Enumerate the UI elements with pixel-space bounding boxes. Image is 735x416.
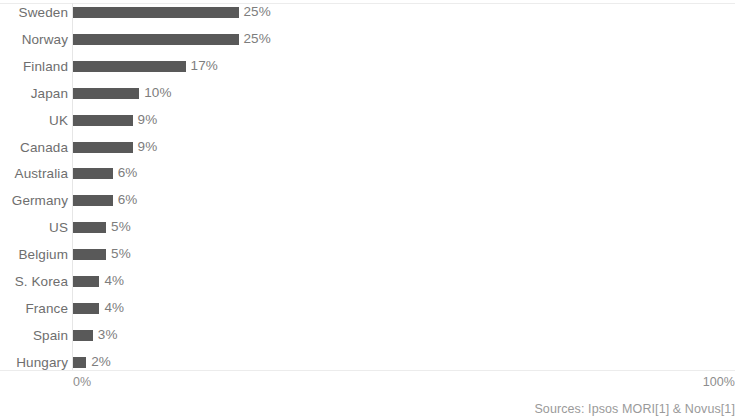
plot-area: Sweden25%Norway25%Finland17%Japan10%UK9%… (0, 0, 735, 370)
bar-row: Japan10% (0, 86, 735, 112)
bar-row: Norway25% (0, 32, 735, 58)
bar-value-label: 5% (111, 246, 131, 262)
bar-row: Spain3% (0, 328, 735, 354)
category-label: US (0, 220, 68, 236)
category-label: Spain (0, 328, 68, 344)
bar-value-label: 4% (104, 273, 124, 289)
x-axis-tick-max: 100% (703, 374, 735, 390)
bar (73, 168, 113, 179)
bar (73, 330, 93, 341)
bar (73, 61, 186, 72)
category-label: UK (0, 113, 68, 129)
bar (73, 276, 99, 287)
bar (73, 195, 113, 206)
bar-value-label: 25% (244, 4, 271, 20)
bar-row: Belgium5% (0, 247, 735, 273)
bar (73, 357, 86, 368)
category-label: Finland (0, 59, 68, 75)
category-label: France (0, 301, 68, 317)
category-label: Belgium (0, 247, 68, 263)
category-label: S. Korea (0, 274, 68, 290)
bar (73, 88, 139, 99)
category-label: Hungary (0, 355, 68, 371)
bar-value-label: 6% (118, 192, 138, 208)
bar (73, 249, 106, 260)
bar-value-label: 9% (138, 112, 158, 128)
category-label: Canada (0, 140, 68, 156)
bar-value-label: 10% (144, 85, 171, 101)
bar-row: Sweden25% (0, 5, 735, 31)
bar-row: Finland17% (0, 59, 735, 85)
bar (73, 222, 106, 233)
bar-value-label: 6% (118, 165, 138, 181)
bar-value-label: 17% (191, 58, 218, 74)
category-label: Norway (0, 32, 68, 48)
value-axis-line (0, 370, 735, 371)
bar-row: Canada9% (0, 140, 735, 166)
category-label: Australia (0, 166, 68, 182)
bar-value-label: 4% (104, 300, 124, 316)
bar-row: Germany6% (0, 193, 735, 219)
bar-value-label: 2% (91, 354, 111, 370)
bar-row: S. Korea4% (0, 274, 735, 300)
category-label: Japan (0, 86, 68, 102)
category-label: Germany (0, 193, 68, 209)
bar-chart: Sweden25%Norway25%Finland17%Japan10%UK9%… (0, 0, 735, 416)
bar-value-label: 5% (111, 219, 131, 235)
sources-note: Sources: Ipsos MORI[1] & Novus[1] (534, 402, 735, 416)
bar-value-label: 3% (98, 327, 118, 343)
bar-value-label: 9% (138, 139, 158, 155)
bar-row: UK9% (0, 113, 735, 139)
category-label: Sweden (0, 5, 68, 21)
bar (73, 34, 239, 45)
bar-row: US5% (0, 220, 735, 246)
bar (73, 115, 133, 126)
bar-row: Hungary2% (0, 355, 735, 381)
x-axis-tick-min: 0% (73, 374, 91, 390)
bar (73, 142, 133, 153)
bar-row: Australia6% (0, 166, 735, 192)
bar-row: France4% (0, 301, 735, 327)
bar (73, 303, 99, 314)
bar (73, 7, 239, 18)
bar-value-label: 25% (244, 31, 271, 47)
